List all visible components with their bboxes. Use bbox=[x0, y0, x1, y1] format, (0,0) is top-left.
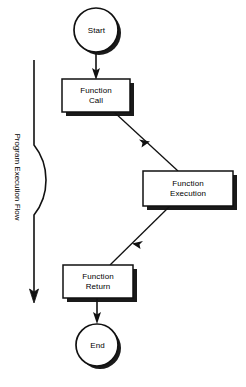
node-start[interactable] bbox=[74, 8, 118, 52]
node-function-execution[interactable] bbox=[143, 171, 233, 206]
node-function-call[interactable] bbox=[62, 79, 130, 112]
program-execution-flow-label: Program Execution Flow bbox=[10, 112, 24, 242]
edge-start-to-function-call bbox=[92, 52, 100, 80]
node-end[interactable] bbox=[76, 324, 118, 366]
flowchart-diagram: Start Function Call Function Execution F… bbox=[0, 0, 246, 387]
edge-function-call-to-function-execution bbox=[114, 112, 178, 171]
flowchart-canvas bbox=[0, 0, 246, 387]
program-execution-flow-arrow bbox=[30, 60, 47, 303]
edge-function-execution-to-function-return bbox=[110, 206, 170, 265]
node-function-return[interactable] bbox=[63, 265, 133, 298]
